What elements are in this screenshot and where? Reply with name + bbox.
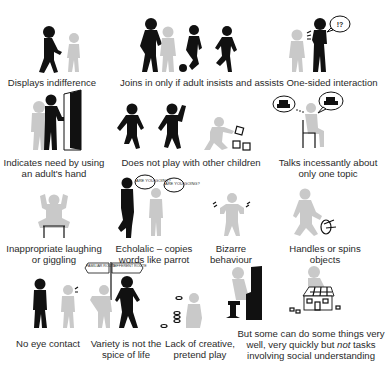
caption-pretend-play-2: pretend play	[162, 349, 238, 360]
caption-bizarre-1: Bizarre	[200, 243, 262, 254]
caption-adult-hand-2: an adult's hand	[2, 168, 106, 179]
echolalic-bubble-1: ARE YOU GOING?	[136, 179, 154, 183]
caption-skills-2a: well, very quickly but	[246, 339, 337, 350]
one-sided-bubble-text: !?	[330, 19, 350, 30]
caption-one-sided: One-sided interaction	[282, 77, 382, 88]
caption-variety-1: Variety is not the	[84, 338, 168, 349]
caption-skills-1: But some can do some things very	[236, 328, 386, 339]
caption-bizarre-2: behaviour	[200, 254, 262, 265]
caption-skills-3: involving social understanding	[236, 350, 386, 361]
caption-one-topic-2: only one topic	[268, 168, 388, 179]
caption-skills-2b: tasks	[350, 339, 375, 350]
caption-one-topic-1: Talks incessantly about	[268, 157, 388, 168]
caption-spins-objects-2: objects	[270, 254, 380, 265]
caption-laughing-1: Inappropriate laughing	[0, 243, 108, 254]
piano-and-house-icon	[0, 0, 1, 1]
caption-indifference: Displays indifference	[0, 77, 104, 88]
caption-joins-if-adult-insists: Joins in only if adult insists and assis…	[120, 77, 260, 88]
caption-skills-not: not	[337, 339, 350, 350]
sign-familiar-route: FAMILIAR ROUTE	[86, 264, 109, 268]
caption-echolalic-1: Echolalic – copies	[108, 243, 200, 254]
caption-variety-2: spice of life	[84, 349, 168, 360]
echolalic-bubble-2: ARE YOU GOING?	[165, 182, 183, 186]
caption-pretend-play-1: Lack of creative,	[162, 338, 238, 349]
caption-adult-hand-1: Indicates need by using	[2, 157, 106, 168]
caption-no-eye-contact: No eye contact	[4, 338, 92, 349]
caption-no-play: Does not play with other children	[110, 157, 272, 168]
sign-different-route: DIFFERENT ROUTE	[113, 264, 140, 268]
caption-skills-2: well, very quickly but not tasks	[236, 339, 386, 350]
caption-spins-objects-1: Handles or spins	[270, 243, 380, 254]
